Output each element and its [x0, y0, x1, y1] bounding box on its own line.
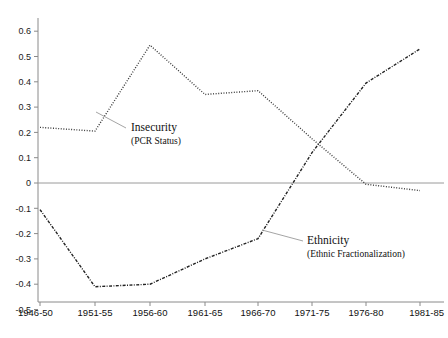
annotation-subtitle: (PCR Status) [131, 136, 181, 147]
annotation-title: Insecurity [131, 121, 177, 134]
x-tick-label: 1946-50 [18, 307, 53, 318]
line-chart: 0.60.50.40.30.20.10-0.1-0.2-0.3-0.4-0.5 … [0, 0, 448, 338]
x-tick-label: 1956-60 [133, 307, 168, 318]
x-tick-label: 1981-85 [409, 307, 444, 318]
annotation-leader-line [262, 230, 303, 241]
annotation-leader-line [96, 112, 126, 128]
y-tick-label: -0.4 [15, 279, 31, 289]
y-tick-label: 0.3 [18, 102, 31, 112]
chart-container: 0.60.50.40.30.20.10-0.1-0.2-0.3-0.4-0.5 … [0, 0, 448, 338]
series-line-insecurity [40, 45, 420, 190]
y-tick-label: 0.2 [18, 128, 31, 138]
annotation-subtitle: (Ethnic Fractionalization) [307, 249, 405, 260]
x-tick-label: 1971-75 [295, 307, 330, 318]
y-tick-label: 0.6 [18, 26, 31, 36]
y-axis: 0.60.50.40.30.20.10-0.1-0.2-0.3-0.4-0.5 [15, 18, 38, 315]
x-axis: 1946-501951-551956-601961-651966-701971-… [18, 302, 444, 318]
x-tick-label: 1961-65 [188, 307, 223, 318]
x-tick-label: 1951-55 [78, 307, 113, 318]
x-tick-label: 1976-80 [349, 307, 384, 318]
y-tick-label: -0.1 [15, 204, 31, 214]
annotation-title: Ethnicity [307, 234, 349, 247]
y-tick-label: -0.3 [15, 254, 31, 264]
series-annotations: Insecurity(PCR Status)Ethnicity(Ethnic F… [96, 112, 405, 260]
y-tick-label: 0 [26, 178, 31, 188]
y-tick-label: 0.1 [18, 153, 31, 163]
y-tick-label: 0.5 [18, 52, 31, 62]
y-tick-label: 0.4 [18, 77, 31, 87]
x-tick-label: 1966-70 [241, 307, 276, 318]
y-tick-label: -0.2 [15, 229, 31, 239]
